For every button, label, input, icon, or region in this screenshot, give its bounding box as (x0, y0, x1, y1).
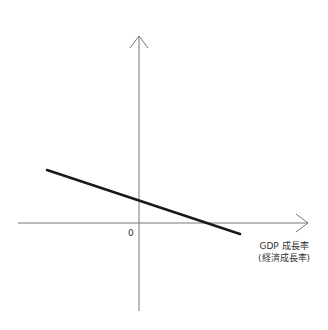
downward-sloping-line (47, 170, 240, 234)
x-axis-label-line2: (経済成長率) (258, 252, 310, 264)
x-axis-label: GDP 成長率 (経済成長率) (258, 240, 310, 264)
x-axis-label-line1: GDP 成長率 (258, 240, 310, 252)
origin-label: 0 (128, 227, 134, 239)
diagram-canvas (0, 0, 328, 330)
